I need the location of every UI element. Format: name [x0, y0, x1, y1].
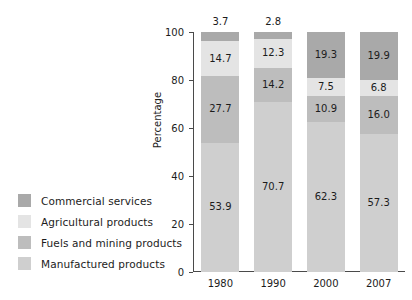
bar-segment[interactable]: 27.7 — [201, 76, 239, 142]
legend-item-manufactured-products: Manufactured products — [18, 253, 178, 274]
bar-segment[interactable]: 57.3 — [360, 134, 398, 272]
bar-segment[interactable]: 62.3 — [307, 122, 345, 272]
y-axis-tick-label: 0 — [178, 267, 184, 278]
plot-area: 020406080100 53.927.714.73.7198070.714.2… — [193, 32, 405, 272]
bar-group[interactable]: 53.927.714.73.71980 — [194, 32, 247, 272]
bar-segment-value-label: 53.9 — [209, 202, 231, 212]
bar-segment[interactable]: 14.2 — [254, 68, 292, 102]
bar-group[interactable]: 62.310.97.519.32000 — [300, 32, 353, 272]
y-axis-tick: 60 — [189, 128, 193, 129]
legend-swatch-agricultural-products — [18, 215, 31, 228]
y-axis-title: Percentage — [152, 92, 163, 148]
bar-segment-value-label: 6.8 — [371, 83, 387, 93]
bar-segment-value-label: 57.3 — [367, 198, 389, 208]
legend-swatch-fuels-and-mining-products — [18, 236, 31, 249]
bar-segment[interactable]: 19.9 — [360, 32, 398, 80]
bar-segment-value-label: 14.7 — [209, 54, 231, 64]
bar-segment-value-label: 16.0 — [367, 110, 389, 120]
bar-group[interactable]: 57.316.06.819.92007 — [352, 32, 405, 272]
bar-stack[interactable]: 62.310.97.519.3 — [307, 32, 345, 272]
bar-segment-value-label: 62.3 — [315, 192, 337, 202]
y-axis-tick-label: 20 — [171, 219, 184, 230]
x-axis-tick-label: 2007 — [366, 278, 391, 289]
bar-segment-value-label: 10.9 — [315, 104, 337, 114]
bar-segment-value-label: 19.9 — [367, 51, 389, 61]
bar-segment[interactable]: 6.8 — [360, 80, 398, 96]
legend-label-manufactured-products: Manufactured products — [41, 258, 165, 270]
bar-stack[interactable]: 57.316.06.819.9 — [360, 32, 398, 272]
bar-segment-value-label: 3.7 — [212, 17, 228, 27]
bar-segment[interactable]: 10.9 — [307, 96, 345, 122]
bar-segment[interactable]: 2.8 — [254, 32, 292, 39]
y-axis-tick: 0 — [189, 272, 193, 273]
y-axis-tick: 40 — [189, 176, 193, 177]
legend-item-fuels-and-mining-products: Fuels and mining products — [18, 232, 178, 253]
y-axis-tick-label: 60 — [171, 123, 184, 134]
stacked-bar-chart-figure: Commercial services Agricultural product… — [0, 0, 412, 300]
bar-stack[interactable]: 53.927.714.73.7 — [201, 32, 239, 272]
bar-segment-value-label: 12.3 — [262, 48, 284, 58]
legend-item-commercial-services: Commercial services — [18, 190, 178, 211]
y-axis-tick-label: 100 — [165, 27, 184, 38]
bar-segment[interactable]: 19.3 — [307, 32, 345, 78]
bar-segment[interactable]: 53.9 — [201, 143, 239, 272]
legend-label-fuels-and-mining-products: Fuels and mining products — [41, 237, 182, 249]
y-axis-tick: 80 — [189, 80, 193, 81]
bar-stack[interactable]: 70.714.212.32.8 — [254, 32, 292, 272]
legend-label-agricultural-products: Agricultural products — [41, 216, 153, 228]
bar-series-container: 53.927.714.73.7198070.714.212.32.8199062… — [194, 32, 405, 272]
bar-group[interactable]: 70.714.212.32.81990 — [247, 32, 300, 272]
legend-item-agricultural-products: Agricultural products — [18, 211, 178, 232]
chart-legend: Commercial services Agricultural product… — [18, 190, 178, 274]
bar-segment[interactable]: 12.3 — [254, 39, 292, 69]
y-axis-tick-label: 80 — [171, 75, 184, 86]
legend-swatch-commercial-services — [18, 194, 31, 207]
bar-segment[interactable]: 16.0 — [360, 96, 398, 134]
bar-segment[interactable]: 70.7 — [254, 102, 292, 272]
bar-segment-value-label: 2.8 — [265, 17, 281, 27]
x-axis-tick-label: 1980 — [208, 278, 233, 289]
legend-swatch-manufactured-products — [18, 257, 31, 270]
x-axis-tick-label: 1990 — [260, 278, 285, 289]
y-axis-tick: 20 — [189, 224, 193, 225]
bar-segment-value-label: 19.3 — [315, 50, 337, 60]
legend-label-commercial-services: Commercial services — [41, 195, 152, 207]
bar-segment-value-label: 27.7 — [209, 104, 231, 114]
bar-segment[interactable]: 14.7 — [201, 41, 239, 76]
x-axis-tick-label: 2000 — [313, 278, 338, 289]
bar-segment-value-label: 14.2 — [262, 80, 284, 90]
bar-segment[interactable]: 7.5 — [307, 78, 345, 96]
bar-segment-value-label: 70.7 — [262, 182, 284, 192]
y-axis-tick-label: 40 — [171, 171, 184, 182]
bar-segment[interactable]: 3.7 — [201, 32, 239, 41]
bar-segment-value-label: 7.5 — [318, 82, 334, 92]
y-axis-tick: 100 — [189, 32, 193, 33]
